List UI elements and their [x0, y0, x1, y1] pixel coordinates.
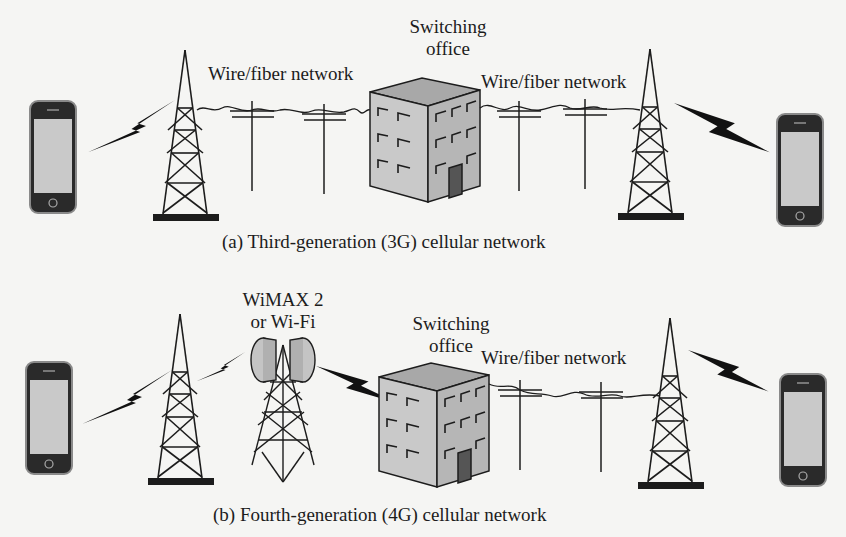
utility-pole-icon: [563, 99, 607, 189]
wireless-link-icon: [82, 370, 172, 424]
caption-b: (b) Fourth-generation (4G) cellular netw…: [213, 505, 546, 524]
utility-pole-icon: [230, 101, 274, 191]
wire-fiber-link: [197, 107, 370, 113]
wimax-wifi-label-line1: WiMAX 2: [232, 289, 334, 311]
wimax-wifi-label-line2: or Wi-Fi: [232, 311, 334, 333]
right-network-label: Wire/fiber network: [481, 72, 626, 91]
wimax-wifi-tower-icon: [251, 338, 315, 482]
switching-office-label-line1: Switching: [393, 16, 503, 38]
wireless-link-icon: [196, 352, 245, 382]
right-network-label: Wire/fiber network: [481, 348, 626, 367]
caption-a: (a) Third-generation (3G) cellular netwo…: [222, 232, 546, 251]
left-network-label: Wire/fiber network: [208, 64, 353, 83]
smartphone-icon: [26, 362, 72, 474]
wireless-link-icon: [674, 103, 770, 152]
cell-tower-icon: [148, 314, 214, 485]
panel-a: [30, 49, 823, 226]
cell-tower-icon: [618, 49, 684, 220]
wimax-wifi-label: WiMAX 2 or Wi-Fi: [232, 289, 334, 333]
switching-office-label-line1: Switching: [396, 313, 506, 335]
utility-pole-icon: [497, 101, 541, 191]
cellular-network-diagram: Wire/fiber network Switching office Wire…: [0, 0, 846, 537]
utility-pole-icon: [302, 104, 346, 194]
wireless-link-icon: [88, 100, 175, 152]
smartphone-icon: [780, 374, 826, 486]
wire-fiber-link: [480, 105, 640, 110]
cell-tower-icon: [638, 318, 704, 489]
switching-office-label: Switching office: [393, 16, 503, 60]
smartphone-icon: [30, 101, 76, 213]
wireless-link-icon: [688, 350, 769, 391]
switching-office-label-line2: office: [393, 38, 503, 60]
switching-office-icon: [370, 78, 480, 202]
switching-office-icon: [379, 363, 489, 487]
smartphone-icon: [777, 114, 823, 226]
